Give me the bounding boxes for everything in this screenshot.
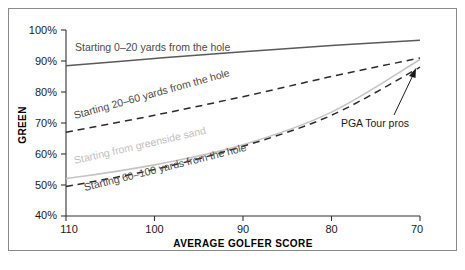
chart-figure: 100% 90% 80% 70% 60% 50% 40% 110 100 90 …	[0, 0, 465, 270]
y-tick-label-90: 90%	[35, 55, 57, 67]
y-tick-label-100: 100%	[29, 24, 57, 36]
y-tick-label-60: 60%	[35, 148, 57, 160]
y-tick-label-40: 40%	[35, 209, 57, 221]
x-tick-label-80: 80	[325, 223, 337, 235]
x-axis-tick-labels: 110 100 90 80 70	[60, 223, 423, 235]
series-inline-labels: Starting 0–20 yards from the hole Starti…	[72, 41, 247, 193]
pga-tour-pros-annotation: PGA Tour pros	[341, 68, 416, 129]
x-tick-label-110: 110	[60, 223, 78, 235]
y-tick-label-70: 70%	[35, 117, 57, 129]
annotation-label-pga-tour-pros: PGA Tour pros	[341, 117, 409, 129]
x-tick-label-100: 100	[145, 223, 163, 235]
y-axis-ticks	[61, 30, 66, 216]
x-tick-label-90: 90	[237, 223, 249, 235]
x-axis-title: AVERAGE GOLFER SCORE	[173, 238, 313, 249]
series-label-0-20-yards: Starting 0–20 yards from the hole	[75, 41, 230, 53]
golf-green-in-regulation-chart: 100% 90% 80% 70% 60% 50% 40% 110 100 90 …	[0, 0, 465, 270]
x-axis-ticks	[66, 216, 420, 221]
annotation-arrow-line	[394, 73, 414, 115]
y-tick-label-50: 50%	[35, 179, 57, 191]
series-label-20-60-yards: Starting 20–60 yards from the hole	[72, 66, 231, 121]
y-axis-tick-labels: 100% 90% 80% 70% 60% 50% 40%	[29, 24, 57, 221]
y-axis-title: GREEN	[17, 106, 28, 144]
series-layer	[66, 40, 420, 186]
y-tick-label-80: 80%	[35, 86, 57, 98]
x-tick-label-70: 70	[411, 223, 423, 235]
